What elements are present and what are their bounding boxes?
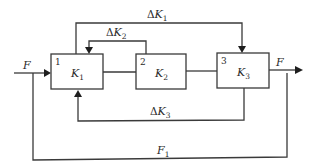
dk2-line [89, 41, 146, 54]
dk1-arrow-icon [238, 46, 246, 53]
block-3-number: 3 [221, 56, 227, 66]
input-label: F [22, 59, 31, 72]
block-1-number: 1 [55, 57, 61, 67]
output-arrow-icon [295, 66, 303, 74]
block-3: 3 K3 [217, 53, 269, 88]
dk3-label: ΔK3 [150, 105, 171, 120]
dk2-label: ΔK2 [106, 26, 127, 41]
dk2-arrow-icon [85, 47, 93, 54]
dk3-arrow-icon [74, 90, 82, 97]
block-1: 1 K1 [51, 54, 103, 89]
dk1-line [76, 23, 242, 54]
input-arrow-icon [44, 69, 51, 77]
dk1-label: ΔK1 [147, 8, 168, 23]
output-label: F [275, 56, 284, 69]
block-2-number: 2 [140, 57, 146, 67]
f1-label: F1 [156, 144, 169, 159]
block-diagram: F F1 ΔK1 ΔK2 ΔK3 F 1 K1 2 K2 3 K3 [0, 0, 316, 167]
block-2: 2 K2 [136, 54, 186, 89]
